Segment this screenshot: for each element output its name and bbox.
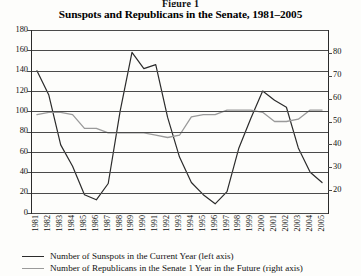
y-tick-left-120: 120 (0, 87, 28, 95)
legend-swatch-icon (22, 268, 44, 269)
gridline (31, 213, 328, 214)
x-tick-2001: 2001 (270, 215, 278, 231)
legend-label: Number of Sunspots in the Current Year (… (50, 251, 234, 261)
x-tick-1984: 1984 (68, 215, 76, 231)
x-tick-1986: 1986 (92, 215, 100, 231)
y-tick-left-0: 0 (0, 209, 28, 217)
y-tick-mark-left (27, 132, 31, 133)
x-tick-1999: 1999 (246, 215, 254, 231)
y-tick-left-140: 140 (0, 66, 28, 74)
x-tick-1993: 1993 (175, 215, 183, 231)
legend-entry-1: Number of Sunspots in the Current Year (… (22, 250, 361, 262)
chart-title: Sunspots and Republicans in the Senate, … (0, 8, 361, 20)
y-axis-left (31, 30, 32, 214)
x-tick-1998: 1998 (234, 215, 242, 231)
y-tick-left-80: 80 (0, 127, 28, 135)
y-tick-right-60: 60 (333, 94, 359, 102)
y-tick-mark-left (27, 193, 31, 194)
legend-swatch-icon (22, 256, 44, 257)
x-tick-1990: 1990 (139, 215, 147, 231)
legend-entry-2: Number of Republicans in the Senate 1 Ye… (22, 262, 361, 274)
y-tick-right-20: 20 (333, 186, 359, 194)
x-tick-1992: 1992 (163, 215, 171, 231)
chart-legend: Number of Sunspots in the Current Year (… (22, 250, 361, 274)
x-tick-1991: 1991 (151, 215, 159, 231)
x-tick-1983: 1983 (56, 215, 64, 231)
y-tick-mark-right (328, 190, 332, 191)
gridline (31, 30, 328, 31)
y-tick-right-50: 50 (333, 117, 359, 125)
figure-label: Figure 1 (0, 0, 361, 7)
x-tick-1982: 1982 (44, 215, 52, 231)
y-tick-mark-left (27, 213, 31, 214)
gridline (31, 132, 328, 133)
y-tick-mark-right (328, 122, 332, 123)
y-tick-right-40: 40 (333, 140, 359, 148)
series-line-2 (37, 110, 322, 137)
x-tick-1985: 1985 (80, 215, 88, 231)
y-tick-left-40: 40 (0, 168, 28, 176)
series-line-1 (37, 52, 322, 203)
x-tick-1988: 1988 (116, 215, 124, 231)
x-tick-1995: 1995 (199, 215, 207, 231)
y-tick-left-100: 100 (0, 107, 28, 115)
x-tick-2005: 2005 (318, 215, 326, 231)
gridline (31, 50, 328, 51)
x-tick-1987: 1987 (104, 215, 112, 231)
gridline (31, 71, 328, 72)
y-tick-right-30: 30 (333, 163, 359, 171)
gridline (31, 193, 328, 194)
x-tick-1994: 1994 (187, 215, 195, 231)
x-tick-2004: 2004 (306, 215, 314, 231)
legend-label: Number of Republicans in the Senate 1 Ye… (50, 263, 303, 273)
y-tick-mark-right (328, 76, 332, 77)
x-tick-1996: 1996 (211, 215, 219, 231)
y-tick-mark-left (27, 172, 31, 173)
y-tick-mark-right (328, 99, 332, 100)
series-layer (31, 30, 328, 213)
x-tick-2000: 2000 (258, 215, 266, 231)
x-tick-1981: 1981 (32, 215, 40, 231)
x-tick-2003: 2003 (294, 215, 302, 231)
x-axis-labels: 1981198219831984198519861987198819891990… (31, 215, 328, 251)
gridline (31, 152, 328, 153)
y-tick-left-20: 20 (0, 188, 28, 196)
y-tick-left-160: 160 (0, 46, 28, 54)
x-tick-1989: 1989 (127, 215, 135, 231)
gridline (31, 172, 328, 173)
y-tick-mark-left (27, 30, 31, 31)
gridline (31, 91, 328, 92)
y-tick-mark-right (328, 144, 332, 145)
y-tick-left-60: 60 (0, 148, 28, 156)
y-tick-mark-left (27, 71, 31, 72)
y-tick-mark-left (27, 50, 31, 51)
y-tick-mark-left (27, 91, 31, 92)
x-tick-1997: 1997 (223, 215, 231, 231)
y-tick-right-70: 70 (333, 71, 359, 79)
y-tick-mark-right (328, 53, 332, 54)
y-tick-mark-right (328, 167, 332, 168)
gridline (31, 111, 328, 112)
y-tick-mark-left (27, 152, 31, 153)
y-tick-mark-left (27, 111, 31, 112)
y-tick-right-80: 80 (333, 48, 359, 56)
plot-area (31, 30, 328, 213)
y-tick-left-180: 180 (0, 26, 28, 34)
x-tick-2002: 2002 (282, 215, 290, 231)
